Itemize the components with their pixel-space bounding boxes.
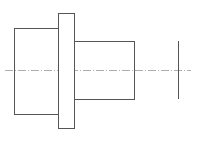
technical-drawing bbox=[0, 0, 197, 143]
flange bbox=[59, 14, 75, 129]
left-cylinder bbox=[15, 29, 59, 115]
